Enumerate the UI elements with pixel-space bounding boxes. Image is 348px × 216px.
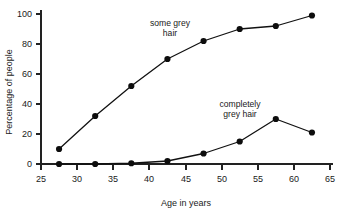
data-point [200, 150, 206, 156]
data-point [128, 83, 134, 89]
annotation-completely-grey-hair-line1: completely [219, 99, 261, 109]
y-tick-label-20: 20 [22, 129, 32, 139]
x-axis-title: Age in years [161, 198, 212, 208]
y-axis-title: Percentage of people [4, 49, 14, 135]
annotation-some-grey-hair: some grey hair [150, 18, 191, 38]
annotation-completely-grey-hair: completely grey hair [219, 99, 261, 119]
x-tick-label-30: 30 [72, 174, 82, 184]
y-tick-label-60: 60 [22, 69, 32, 79]
x-tick-label-45: 45 [181, 174, 191, 184]
x-tick-marks [41, 164, 330, 170]
x-tick-label-25: 25 [36, 174, 46, 184]
x-tick-label-35: 35 [108, 174, 118, 184]
annotation-some-grey-hair-line1: some grey [150, 18, 191, 28]
y-tick-label-40: 40 [22, 99, 32, 109]
data-point [273, 116, 279, 122]
data-point [237, 26, 243, 32]
x-tick-label-60: 60 [289, 174, 299, 184]
data-point [128, 160, 134, 166]
y-tick-marks [36, 14, 41, 164]
y-tick-labels: 0 20 40 60 80 100 [17, 9, 32, 169]
series-markers-1 [56, 116, 315, 167]
axes-group [38, 10, 333, 168]
x-tick-label-40: 40 [144, 174, 154, 184]
series-line-1 [59, 119, 312, 164]
chart-container: 0 20 40 60 80 100 25 30 35 40 45 50 [0, 0, 348, 216]
data-point [92, 161, 98, 167]
data-point [164, 158, 170, 164]
data-point [164, 56, 170, 62]
y-tick-label-0: 0 [27, 159, 32, 169]
series-completely-grey-hair [56, 116, 315, 167]
data-point [56, 146, 62, 152]
series-some-grey-hair [56, 12, 315, 152]
x-tick-label-50: 50 [217, 174, 227, 184]
line-chart: 0 20 40 60 80 100 25 30 35 40 45 50 [0, 0, 348, 216]
annotation-some-grey-hair-line2: hair [163, 28, 177, 38]
data-point [309, 12, 315, 18]
x-tick-label-55: 55 [253, 174, 263, 184]
annotation-completely-grey-hair-line2: grey hair [223, 109, 257, 119]
data-point [200, 38, 206, 44]
y-tick-label-80: 80 [22, 39, 32, 49]
y-tick-label-100: 100 [17, 9, 32, 19]
series-line-0 [59, 16, 312, 150]
data-point [237, 138, 243, 144]
x-tick-label-65: 65 [325, 174, 335, 184]
data-point [92, 113, 98, 119]
data-point [309, 129, 315, 135]
series-markers-0 [56, 12, 315, 152]
x-tick-labels: 25 30 35 40 45 50 55 60 65 [36, 174, 335, 184]
data-point [56, 161, 62, 167]
data-point [273, 23, 279, 29]
